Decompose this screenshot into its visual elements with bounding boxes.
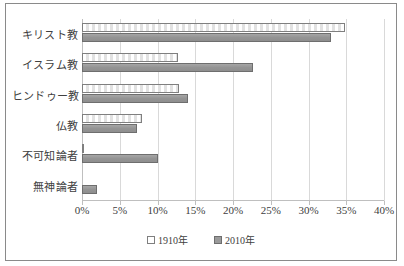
legend-item[interactable]: 2010年 — [214, 232, 255, 247]
x-tick-label: 25% — [261, 204, 281, 216]
bar-1910[interactable] — [82, 144, 84, 153]
category-label: キリスト教 — [12, 26, 78, 42]
legend-label: 2010年 — [225, 232, 255, 247]
x-tick-label: 35% — [336, 204, 356, 216]
bar-2010[interactable] — [82, 63, 253, 72]
bar-2010[interactable] — [82, 124, 137, 133]
x-tick-label: 0% — [75, 204, 90, 216]
category-label-item: 無神論者 — [12, 171, 78, 201]
bar-group — [82, 49, 384, 79]
category-label: 仏教 — [12, 117, 78, 133]
x-tick-label: 20% — [223, 204, 243, 216]
bar-1910[interactable] — [82, 84, 179, 93]
legend-swatch-icon — [147, 236, 155, 244]
x-tick-label: 30% — [298, 204, 318, 216]
category-label: 不可知論者 — [12, 147, 78, 163]
x-tick-label: 5% — [112, 204, 127, 216]
gridline — [384, 19, 385, 201]
bar-group — [82, 171, 384, 201]
chart-legend: 1910年2010年 — [6, 232, 396, 247]
category-axis-labels: キリスト教イスラム教ヒンドゥー教仏教不可知論者無神論者 — [12, 19, 78, 201]
category-label: イスラム教 — [12, 56, 78, 72]
legend-item[interactable]: 1910年 — [147, 232, 188, 247]
bar-group — [82, 140, 384, 170]
bar-group — [82, 110, 384, 140]
category-label: 無神論者 — [12, 178, 78, 194]
category-label: ヒンドゥー教 — [12, 87, 78, 103]
bar-2010[interactable] — [82, 33, 331, 42]
bar-1910[interactable] — [82, 114, 142, 123]
x-tick-label: 10% — [147, 204, 167, 216]
legend-swatch-icon — [214, 236, 222, 244]
category-label-item: ヒンドゥー教 — [12, 80, 78, 110]
bar-1910[interactable] — [82, 53, 178, 62]
bar-2010[interactable] — [82, 154, 158, 163]
bar-2010[interactable] — [82, 94, 188, 103]
chart-container: キリスト教イスラム教ヒンドゥー教仏教不可知論者無神論者 0%5%10%15%20… — [5, 3, 397, 261]
bar-1910[interactable] — [82, 23, 345, 32]
category-label-item: 仏教 — [12, 110, 78, 140]
category-label-item: キリスト教 — [12, 19, 78, 49]
plot-area — [82, 19, 384, 201]
x-tick-label: 40% — [374, 204, 394, 216]
x-axis-tick-labels: 0%5%10%15%20%25%30%35%40% — [82, 204, 384, 220]
bar-2010[interactable] — [82, 185, 97, 194]
bar-group — [82, 80, 384, 110]
x-tick-label: 15% — [185, 204, 205, 216]
category-label-item: 不可知論者 — [12, 140, 78, 170]
legend-label: 1910年 — [158, 232, 188, 247]
bar-group — [82, 19, 384, 49]
category-label-item: イスラム教 — [12, 49, 78, 79]
